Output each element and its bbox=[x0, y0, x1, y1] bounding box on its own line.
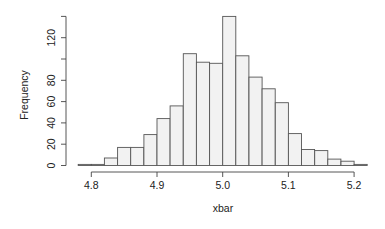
x-tick-label: 5.1 bbox=[281, 179, 296, 191]
histogram-chart: 020406080120 4.84.95.05.15.2 Frequency x… bbox=[0, 0, 385, 229]
x-axis: 4.84.95.05.15.2 bbox=[84, 172, 362, 191]
histogram-bar bbox=[210, 63, 223, 165]
x-axis-title: xbar bbox=[213, 202, 234, 214]
x-tick-label: 5.0 bbox=[215, 179, 230, 191]
histogram-bar bbox=[144, 135, 157, 166]
histogram-bar bbox=[249, 77, 262, 165]
histogram-bar bbox=[118, 147, 131, 165]
histogram-bar bbox=[236, 56, 249, 166]
y-tick-label: 120 bbox=[45, 29, 57, 47]
histogram-bar bbox=[223, 16, 236, 165]
y-tick-label: 0 bbox=[45, 162, 57, 168]
histogram-bar bbox=[157, 119, 170, 166]
histogram-bar bbox=[341, 161, 354, 165]
histogram-bar bbox=[262, 89, 275, 166]
histogram-bar bbox=[354, 164, 367, 165]
y-tick-label: 20 bbox=[45, 138, 57, 150]
histogram-bar bbox=[78, 164, 91, 165]
y-tick-label: 40 bbox=[45, 117, 57, 129]
y-tick-label: 60 bbox=[45, 96, 57, 108]
histogram-bar bbox=[328, 159, 341, 165]
histogram-bar bbox=[288, 134, 301, 166]
histogram-bar bbox=[104, 158, 117, 166]
histogram-bars bbox=[78, 16, 367, 165]
histogram-bar bbox=[183, 54, 196, 166]
x-tick-label: 5.2 bbox=[347, 179, 362, 191]
histogram-bar bbox=[196, 62, 209, 165]
y-axis: 020406080120 bbox=[45, 16, 66, 168]
histogram-bar bbox=[315, 151, 328, 166]
x-tick-label: 4.8 bbox=[84, 179, 99, 191]
histogram-bar bbox=[275, 103, 288, 166]
x-tick-label: 4.9 bbox=[150, 179, 165, 191]
histogram-bar bbox=[91, 164, 104, 165]
histogram-bar bbox=[170, 106, 183, 166]
histogram-bar bbox=[131, 147, 144, 165]
y-tick-label: 80 bbox=[45, 74, 57, 86]
histogram-bar bbox=[302, 150, 315, 166]
y-axis-title: Frequency bbox=[18, 69, 30, 119]
